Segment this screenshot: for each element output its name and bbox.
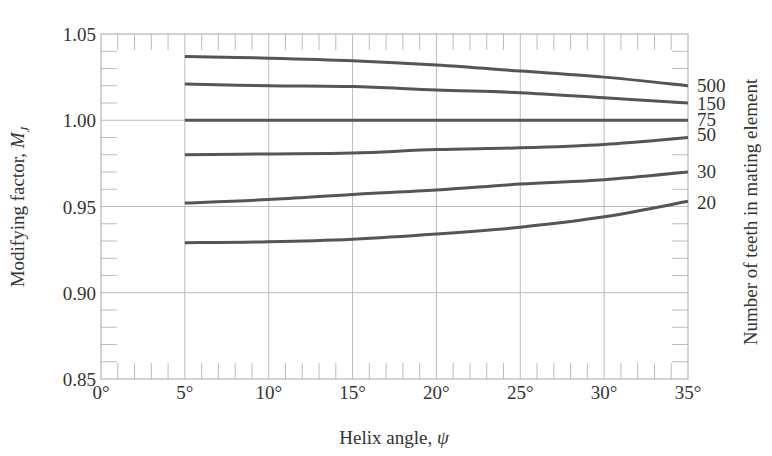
- x-axis-title: Helix angle, ψ: [339, 427, 450, 448]
- y-axis-tick-labels: 0.850.900.951.001.05: [63, 24, 96, 390]
- y-axis-title: Modifying factor, MJ: [7, 125, 32, 287]
- x-tick-label: 15°: [339, 382, 366, 403]
- series-label-20: 20: [697, 192, 716, 213]
- y-tick-label: 1.05: [63, 24, 96, 45]
- x-tick-label: 5°: [176, 382, 193, 403]
- x-tick-label: 30°: [591, 382, 618, 403]
- y-axis-title-text: Modifying factor,: [7, 148, 28, 287]
- y-axis-title-subscript: J: [17, 125, 32, 132]
- series-label-30: 30: [697, 161, 716, 182]
- grid-lines: [101, 34, 688, 379]
- x-tick-label: 20°: [423, 382, 450, 403]
- series-label-50: 50: [697, 124, 716, 145]
- y-axis-title-symbol: M: [7, 131, 28, 149]
- y-tick-label: 1.00: [63, 110, 96, 131]
- y-tick-label: 0.90: [63, 283, 96, 304]
- y-tick-label: 0.95: [63, 197, 96, 218]
- chart-figure: 0°5°10°15°20°25°30°35° 0.850.900.951.001…: [0, 0, 772, 456]
- x-tick-label: 10°: [255, 382, 282, 403]
- x-tick-label: 35°: [675, 382, 702, 403]
- x-axis-title-text: Helix angle,: [339, 427, 437, 448]
- x-axis-title-symbol: ψ: [437, 427, 450, 448]
- x-axis-tick-labels: 0°5°10°15°20°25°30°35°: [92, 382, 701, 403]
- x-tick-label: 25°: [507, 382, 534, 403]
- right-axis-title: Number of teeth in mating element: [740, 78, 761, 345]
- y-tick-label: 0.85: [63, 369, 96, 390]
- series-labels: 50015075503020: [697, 75, 726, 213]
